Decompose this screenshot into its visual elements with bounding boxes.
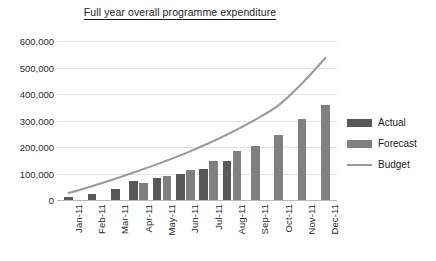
chart-legend: ActualForecastBudget (347, 112, 435, 175)
chart-container: Full year overall programme expenditure … (0, 0, 436, 261)
chart-title-text: Full year overall programme expenditure (84, 6, 276, 20)
y-axis-tick-label: 400,000 (0, 89, 54, 100)
y-axis-tick-label: 100,000 (0, 168, 54, 179)
y-axis-tick-label: 300,000 (0, 115, 54, 126)
legend-swatch-icon (347, 140, 372, 148)
legend-item-label: Budget (378, 159, 410, 170)
x-axis-tick-label: Mar-11 (119, 204, 130, 234)
x-axis-tick-label: Jul-11 (213, 204, 224, 230)
x-axis-tick-label: Sep-11 (259, 204, 270, 235)
y-axis-tick-label: 0 (0, 195, 54, 206)
x-axis-tick-label: May-11 (166, 204, 177, 236)
legend-item[interactable]: Budget (347, 154, 435, 175)
legend-swatch-icon (347, 119, 372, 127)
chart-title: Full year overall programme expenditure (0, 6, 360, 18)
x-axis-tick-label: Oct-11 (283, 204, 294, 232)
legend-item-label: Actual (378, 117, 406, 128)
x-axis-tick-label: Aug-11 (236, 204, 247, 235)
budget-line-series (57, 41, 337, 200)
x-axis-baseline (57, 200, 337, 201)
x-axis-tick-label: Nov-11 (306, 204, 317, 235)
legend-item[interactable]: Forecast (347, 133, 435, 154)
x-axis-tick-label: Feb-11 (96, 204, 107, 234)
x-axis-tick-label: Apr-11 (143, 204, 154, 232)
x-axis-tick-label: Dec-11 (329, 204, 340, 235)
y-axis-tick-label: 500,000 (0, 62, 54, 73)
y-axis-tick-label: 200,000 (0, 142, 54, 153)
legend-item[interactable]: Actual (347, 112, 435, 133)
x-axis-tick-label: Jan-11 (73, 204, 84, 233)
y-axis-tick-label: 600,000 (0, 36, 54, 47)
budget-line-path (69, 58, 326, 193)
x-axis-tick-label: Jun-11 (189, 204, 200, 233)
y-axis: 0100,000200,000300,000400,000500,000600,… (0, 0, 54, 261)
legend-line-icon (347, 164, 372, 166)
legend-item-label: Forecast (378, 138, 417, 149)
